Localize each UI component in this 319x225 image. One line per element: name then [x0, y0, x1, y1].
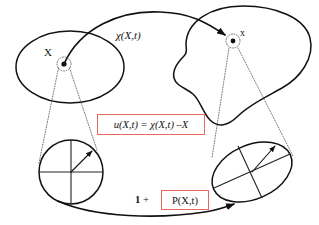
current-neighborhood-axis-minor [238, 146, 262, 198]
gradient-prefix: 1 + [135, 194, 149, 205]
current-magnifier-cone-left [212, 48, 229, 158]
current-point-label: x [240, 28, 245, 38]
current-neighborhood-axis-major [214, 154, 290, 188]
diagram-canvas [0, 0, 319, 225]
reference-neighborhood-vector-arrow [71, 151, 92, 172]
reference-point-dot [61, 61, 66, 66]
gradient-plus-glyph: + [143, 194, 149, 205]
motion-map-label: χ(X,t) [116, 30, 141, 41]
deformation-diagram: X x χ(X,t) u(X,t) = χ(X,t) –X 1 + P(X,t) [0, 0, 319, 225]
current-neighborhood-vector-arrow [252, 146, 275, 172]
displacement-equation-box: u(X,t) = χ(X,t) –X [97, 114, 205, 135]
reference-magnifier-cone-right [70, 68, 98, 150]
current-magnifier-cone-right [238, 48, 293, 156]
current-body-outline [174, 6, 311, 125]
reference-point-label: X [44, 47, 52, 58]
current-point-dot [231, 39, 236, 44]
displacement-gradient-box: P(X,t) [161, 190, 209, 210]
motion-map-arrow [64, 12, 225, 64]
